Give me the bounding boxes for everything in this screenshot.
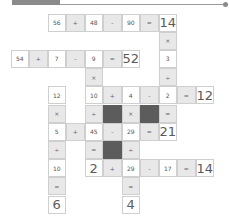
operator-cell: - (103, 123, 122, 141)
operator-cell: × (122, 105, 141, 123)
operator-cell: = (48, 177, 67, 195)
number-cell[interactable]: 17 (159, 159, 178, 177)
number-cell[interactable]: 48 (85, 14, 104, 32)
operator-cell: × (48, 105, 67, 123)
operator-cell: = (85, 141, 104, 159)
result-cell: 2 (85, 159, 104, 177)
operator-cell: ÷ (85, 105, 104, 123)
operator-cell: - (103, 14, 122, 32)
operator-cell: - (66, 50, 85, 68)
number-cell[interactable]: 7 (48, 50, 67, 68)
operator-cell: × (159, 32, 178, 50)
result-cell: 12 (196, 86, 215, 104)
number-cell[interactable]: 90 (122, 14, 141, 32)
result-cell: 4 (122, 196, 141, 214)
progress-dot-icon (223, 2, 228, 7)
number-cell[interactable]: 10 (85, 86, 104, 104)
operator-cell: - (140, 86, 159, 104)
operator-cell: = (140, 123, 159, 141)
progress-line (60, 4, 225, 5)
operator-cell: ÷ (122, 141, 141, 159)
operator-cell: + (29, 50, 48, 68)
operator-cell: × (85, 68, 104, 86)
number-cell[interactable]: 2 (159, 86, 178, 104)
operator-cell: + (103, 159, 122, 177)
number-cell[interactable]: 45 (85, 123, 104, 141)
number-cell[interactable]: 5 (48, 123, 67, 141)
result-cell: 21 (159, 123, 178, 141)
operator-cell: ÷ (159, 68, 178, 86)
result-cell: 6 (48, 196, 67, 214)
operator-cell: ÷ (48, 141, 67, 159)
operator-cell: = (159, 105, 178, 123)
operator-cell: = (177, 159, 196, 177)
number-cell[interactable]: 29 (122, 159, 141, 177)
number-cell[interactable]: 56 (48, 14, 67, 32)
header-tab (12, 0, 60, 5)
blocked-cell (103, 105, 122, 123)
number-cell[interactable]: 12 (48, 86, 67, 104)
operator-cell: = (140, 14, 159, 32)
number-cell[interactable]: 54 (11, 50, 30, 68)
result-cell: 14 (159, 14, 178, 32)
operator-cell: + (103, 86, 122, 104)
operator-cell: = (177, 86, 196, 104)
operator-cell: = (122, 177, 141, 195)
number-cell[interactable]: 4 (122, 86, 141, 104)
operator-cell: + (66, 123, 85, 141)
number-cell[interactable]: 3 (159, 50, 178, 68)
operator-cell: - (140, 159, 159, 177)
blocked-cell (103, 141, 122, 159)
operator-cell: = (103, 50, 122, 68)
operator-cell: + (66, 14, 85, 32)
result-cell: 52 (122, 50, 141, 68)
blocked-cell (140, 105, 159, 123)
number-cell[interactable]: 9 (85, 50, 104, 68)
number-cell[interactable]: 29 (122, 123, 141, 141)
result-cell: 14 (196, 159, 215, 177)
number-cell[interactable]: 10 (48, 159, 67, 177)
